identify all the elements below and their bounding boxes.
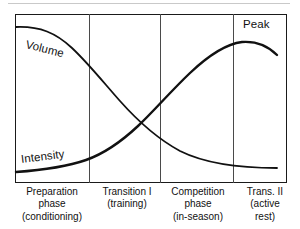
phase-divider-2 xyxy=(160,14,161,183)
phase-divider-1 xyxy=(89,14,90,183)
phase-caption-transition-1: Transition I (training) xyxy=(91,186,163,211)
figure-container: Volume Intensity Peak Preparation phase … xyxy=(0,0,300,229)
phase-divider-3 xyxy=(233,14,234,183)
phase-caption-competition: Competition phase (in-season) xyxy=(161,186,235,223)
phase-caption-transition-2: Trans. II (active rest) xyxy=(234,186,296,223)
phase-caption-line-2: (training) xyxy=(91,198,163,210)
phase-caption-line-2: (active xyxy=(234,198,296,210)
phase-caption-line-2: phase xyxy=(11,198,93,210)
scan-artifact-line xyxy=(8,3,290,4)
peak-annotation-label: Peak xyxy=(243,18,270,30)
phase-caption-line-1: Transition I xyxy=(91,186,163,198)
phase-caption-line-1: Preparation xyxy=(11,186,93,198)
phase-caption-line-3: (in-season) xyxy=(161,211,235,223)
phase-captions: Preparation phase (conditioning) Transit… xyxy=(15,186,287,229)
phase-caption-line-2: phase xyxy=(161,198,235,210)
phase-caption-preparation: Preparation phase (conditioning) xyxy=(11,186,93,223)
phase-caption-line-1: Competition xyxy=(161,186,235,198)
phase-caption-line-3: rest) xyxy=(234,211,296,223)
phase-caption-line-3: (conditioning) xyxy=(11,211,93,223)
phase-caption-line-1: Trans. II xyxy=(234,186,296,198)
